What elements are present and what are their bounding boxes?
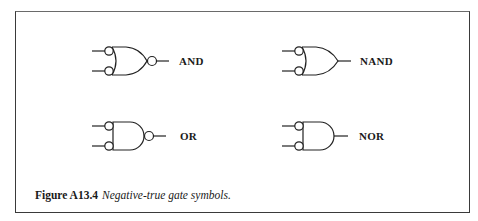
input-bubble-icon xyxy=(295,67,303,75)
gate-label-nor: NOR xyxy=(359,130,385,142)
input-bubble-icon xyxy=(105,67,113,75)
output-bubble-icon xyxy=(145,132,154,141)
input-bubble-icon xyxy=(105,122,113,130)
input-bubble-icon xyxy=(295,122,303,130)
gate-label-and: AND xyxy=(179,55,204,67)
gate-nand-symbol: NAND xyxy=(282,47,393,75)
and-body-outline xyxy=(113,122,144,150)
or-body-outline xyxy=(302,47,338,75)
gate-diagram: AND NAND OR NOR xyxy=(0,0,478,221)
input-bubble-icon xyxy=(295,142,303,150)
figure-caption: Figure A13.4Negative-true gate symbols. xyxy=(35,189,231,201)
gate-label-or: OR xyxy=(180,130,198,142)
figure-number: Figure A13.4 xyxy=(35,189,98,201)
gate-label-nand: NAND xyxy=(360,55,393,67)
or-body-outline xyxy=(112,47,147,75)
figure-caption-text: Negative-true gate symbols. xyxy=(102,189,231,201)
input-bubble-icon xyxy=(105,47,113,55)
gate-and-symbol: AND xyxy=(92,47,204,75)
input-bubble-icon xyxy=(295,47,303,55)
gate-nor-symbol: NOR xyxy=(282,122,385,150)
output-bubble-icon xyxy=(148,57,157,66)
input-bubble-icon xyxy=(105,142,113,150)
gate-or-symbol: OR xyxy=(92,122,198,150)
and-body-outline xyxy=(303,122,334,150)
